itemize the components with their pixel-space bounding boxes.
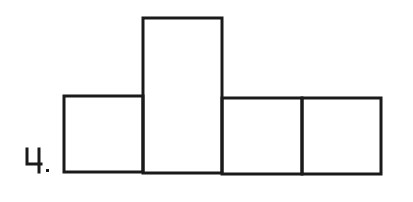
box-1 <box>64 96 143 172</box>
box-2-tall <box>143 18 222 173</box>
problem-number-label <box>27 149 49 172</box>
rectangle-net <box>64 18 381 174</box>
box-4 <box>302 98 381 174</box>
figure-canvas <box>0 0 413 202</box>
box-3 <box>222 98 302 174</box>
